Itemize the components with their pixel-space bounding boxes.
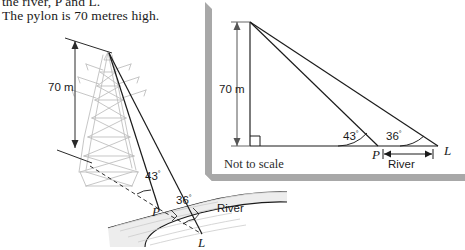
inset-triangle-diagram: 70 m 43° 36° P L River Not to scale <box>0 0 465 250</box>
not-to-scale-note: Not to scale <box>224 157 284 171</box>
river-label-inset: River <box>388 158 415 170</box>
point-p-label-inset: P <box>371 147 380 162</box>
diagram-page: the river, P and L. The pylon is 70 metr… <box>0 0 465 250</box>
height-label-inset: 70 m <box>219 83 245 95</box>
point-l-label-inset: L <box>443 143 451 158</box>
